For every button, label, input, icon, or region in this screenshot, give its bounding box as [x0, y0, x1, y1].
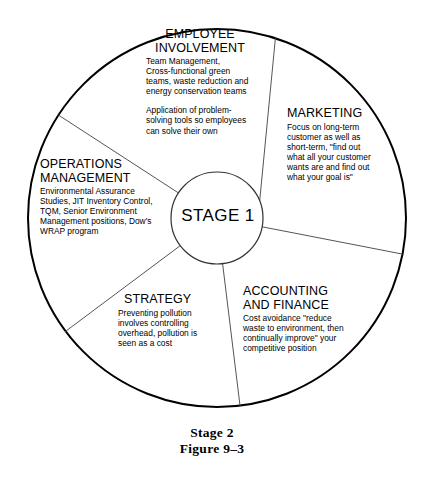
segment-body-marketing-1: Focus on long-term customer as well as s… [287, 122, 393, 183]
caption-figure-number: Figure 9–3 [0, 441, 424, 457]
segment-title-operations-management: OPERATIONS MANAGEMENT [40, 158, 192, 185]
segment-title-employee-involvement: EMPLOYEE INVOLVEMENT [134, 28, 272, 55]
segment-title-strategy: STRATEGY [118, 293, 228, 307]
segment-body-employee-involvement-1: Team Management, Cross-functional green … [134, 56, 272, 96]
hub-label: STAGE 1 [163, 206, 273, 226]
figure-caption: Stage 2 Figure 9–3 [0, 425, 424, 457]
segment-body-employee-involvement-2: Application of problem- solving tools so… [134, 105, 272, 135]
segment-employee-involvement: EMPLOYEE INVOLVEMENT Team Management, Cr… [134, 28, 272, 136]
segment-title-accounting-finance: ACCOUNTING AND FINANCE [243, 285, 365, 312]
segment-accounting-finance: ACCOUNTING AND FINANCE Cost avoidance "r… [243, 285, 365, 353]
segment-body-strategy-1: Preventing pollution involves controllin… [118, 308, 228, 348]
caption-stage-label: Stage 2 [0, 425, 424, 441]
segment-body-accounting-finance-1: Cost avoidance "reduce waste to environm… [243, 313, 365, 353]
segment-marketing: MARKETING Focus on long-term customer as… [287, 107, 393, 182]
figure-canvas: STAGE 1 EMPLOYEE INVOLVEMENT Team Manage… [0, 0, 424, 479]
segment-title-marketing: MARKETING [287, 107, 393, 121]
segment-strategy: STRATEGY Preventing pollution involves c… [118, 293, 228, 348]
